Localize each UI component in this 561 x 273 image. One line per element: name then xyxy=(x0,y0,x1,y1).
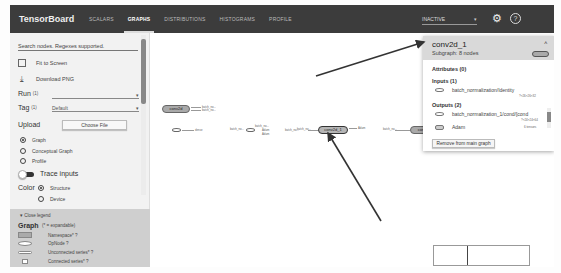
tag-count: (1) xyxy=(31,105,37,110)
edge xyxy=(308,130,318,131)
tab-graphs[interactable]: GRAPHS xyxy=(128,5,151,33)
trace-inputs-toggle[interactable] xyxy=(18,170,34,179)
attributes-header[interactable]: Attributes (0) xyxy=(432,66,466,72)
run-dropdown[interactable]: ▾ xyxy=(52,91,139,99)
legend-title: Graph xyxy=(18,222,39,229)
color-row: Color xyxy=(18,184,35,191)
fit-to-screen-label: Fit to Screen xyxy=(36,60,67,66)
edge xyxy=(191,107,201,108)
input-shape: ?×26×26×32 xyxy=(519,94,536,98)
outputs-scrollbar[interactable] xyxy=(547,108,551,128)
output-shape: ?×24×24×64 xyxy=(521,118,538,122)
radio-unselected-icon xyxy=(38,196,44,202)
trace-inputs-label: Trace inputs xyxy=(40,170,78,177)
radio-color-structure[interactable]: Structure xyxy=(38,185,70,191)
run-count: (1) xyxy=(33,91,39,96)
run-label-row: Run (1) xyxy=(18,90,38,97)
inputs-header[interactable]: Inputs (1) xyxy=(432,78,457,84)
tab-distributions[interactable]: DISTRIBUTIONS xyxy=(164,5,205,33)
output-item[interactable]: Adam xyxy=(435,124,465,130)
search-input[interactable]: Search nodes. Regexes supported. xyxy=(18,43,138,51)
dashboard-tabs: SCALARS GRAPHS DISTRIBUTIONS HISTOGRAMS … xyxy=(89,5,306,33)
radio-graph-label: Graph xyxy=(32,137,46,143)
opnode-swatch-icon xyxy=(18,241,32,246)
edge xyxy=(182,130,194,131)
tag-label: Tag xyxy=(18,104,29,111)
radio-graph[interactable]: Graph xyxy=(20,137,46,143)
radio-color-device[interactable]: Device xyxy=(38,196,65,202)
edge-label: Adam xyxy=(262,132,269,136)
input-name: batch_normalization/Identity xyxy=(452,87,514,93)
tab-scalars[interactable]: SCALARS xyxy=(89,5,114,33)
outputs-header[interactable]: Outputs (2) xyxy=(432,102,461,108)
radio-selected-icon xyxy=(20,137,26,143)
info-card-header: conv2d_1 Subgraph: 8 nodes ˄ xyxy=(423,36,554,60)
help-icon[interactable]: ? xyxy=(510,13,521,24)
output-name: batch_normalization_1/cond/[cond xyxy=(452,111,528,117)
legend-unconnected-label[interactable]: Unconnected series* ? xyxy=(48,250,93,255)
radio-profile-label: Profile xyxy=(32,158,46,164)
opnode-icon xyxy=(435,88,444,92)
graph-opnode[interactable] xyxy=(172,128,181,132)
gear-icon[interactable]: ⚙ xyxy=(492,13,503,24)
collapse-icon[interactable]: ˄ xyxy=(544,40,548,46)
legend-namespace-label[interactable]: Namespace* ? xyxy=(48,233,78,238)
input-item[interactable]: batch_normalization/Identity xyxy=(435,87,514,93)
radio-device-label: Device xyxy=(50,196,65,202)
legend-item-connected: Connected series* ? xyxy=(18,259,89,264)
radio-profile[interactable]: Profile xyxy=(20,158,46,164)
graph-minimap[interactable] xyxy=(433,245,530,266)
edge-label: Adam xyxy=(358,126,365,130)
radio-structure-label: Structure xyxy=(50,185,70,191)
tab-profile[interactable]: PROFILE xyxy=(269,5,292,33)
inactive-dropdown[interactable]: INACTIVE ▾ xyxy=(422,13,477,25)
fit-to-screen-button[interactable]: Fit to Screen xyxy=(18,59,67,67)
legend-subtitle: (* = expandable) xyxy=(42,223,75,228)
tag-dropdown[interactable]: Default ▾ xyxy=(52,104,139,112)
node-info-card: conv2d_1 Subgraph: 8 nodes ˄ Attributes … xyxy=(423,36,554,151)
graph-opnode[interactable] xyxy=(246,128,255,132)
fit-screen-icon xyxy=(18,59,26,67)
upload-row: Upload xyxy=(18,121,40,128)
upload-label: Upload xyxy=(18,121,40,128)
scrollbar-thumb[interactable] xyxy=(141,39,146,104)
legend-connected-label[interactable]: Connected series* ? xyxy=(48,259,89,264)
opnode-icon xyxy=(435,112,444,116)
radio-conceptual-graph[interactable]: Conceptual Graph xyxy=(20,148,73,154)
caret-down-icon: ▾ xyxy=(136,92,139,98)
graph-node-conv2d-1[interactable]: conv2d_1 xyxy=(318,126,348,134)
download-png-label: Download PNG xyxy=(36,76,74,82)
edge xyxy=(395,130,410,131)
choose-file-button[interactable]: Choose File xyxy=(62,120,127,130)
sidebar: Search nodes. Regexes supported. Fit to … xyxy=(10,33,150,267)
sidebar-scrollbar[interactable] xyxy=(141,35,146,195)
toggle-knob xyxy=(18,170,27,179)
output-shape: 6 tensors xyxy=(524,125,536,129)
unconnected-series-swatch-icon xyxy=(18,251,32,254)
remove-from-main-graph-button[interactable]: Remove from main graph xyxy=(432,139,495,148)
graph-legend: ▾ Close legend Graph (* = expandable) Na… xyxy=(10,209,150,267)
caret-down-icon: ▾ xyxy=(474,16,477,22)
edge-label: dense xyxy=(195,128,203,132)
download-icon: ⤓ xyxy=(18,75,26,83)
close-legend-button[interactable]: ▾ Close legend xyxy=(20,213,51,218)
output-name: Adam xyxy=(452,124,465,130)
legend-item-opnode: OpNode ? xyxy=(18,241,69,246)
color-label: Color xyxy=(18,184,35,191)
tag-label-row: Tag (1) xyxy=(18,104,37,111)
radio-conceptual-label: Conceptual Graph xyxy=(32,148,73,154)
info-card-title: conv2d_1 xyxy=(432,40,467,49)
scrollbar-thumb[interactable] xyxy=(547,112,551,122)
output-item[interactable]: batch_normalization_1/cond/[cond xyxy=(435,111,528,117)
legend-item-unconnected: Unconnected series* ? xyxy=(18,250,93,255)
edge-label: batch_no... xyxy=(230,127,244,131)
legend-opnode-label[interactable]: OpNode ? xyxy=(48,241,69,246)
graph-node-conv2d[interactable]: conv2d xyxy=(162,105,190,113)
legend-item-namespace: Namespace* ? xyxy=(18,232,78,238)
caret-down-icon: ▾ xyxy=(136,105,139,111)
download-png-button[interactable]: ⤓ Download PNG xyxy=(18,75,74,83)
minimap-viewport[interactable] xyxy=(434,246,468,265)
close-legend-label: Close legend xyxy=(24,213,50,218)
tab-histograms[interactable]: HISTOGRAMS xyxy=(220,5,256,33)
app-title: TensorBoard xyxy=(19,14,89,24)
